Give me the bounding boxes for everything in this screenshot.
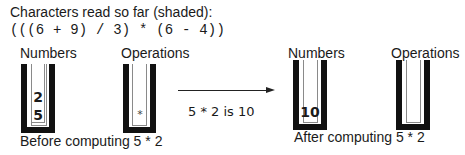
after-numbers-label: Numbers	[288, 45, 345, 61]
before-number-item: 2	[27, 89, 49, 105]
before-operations-label: Operations	[121, 45, 189, 61]
after-operations-label: Operations	[391, 45, 459, 61]
after-operations-inner	[406, 60, 421, 123]
before-operation-item: *	[130, 108, 150, 121]
before-numbers-label: Numbers	[20, 45, 77, 61]
after-number-item: 10	[297, 104, 323, 120]
after-caption: After computing 5 * 2	[294, 129, 425, 145]
expression: (((6 + 9) / 3) * (6 - 4))	[10, 22, 225, 38]
header-title: Characters read so far (shaded):	[10, 4, 212, 20]
transition-arrow	[178, 90, 270, 91]
before-caption: Before computing 5 * 2	[20, 133, 162, 149]
arrowhead-icon	[266, 87, 275, 93]
transition-label: 5 * 2 is 10	[188, 104, 255, 119]
before-number-item: 5	[27, 107, 49, 123]
